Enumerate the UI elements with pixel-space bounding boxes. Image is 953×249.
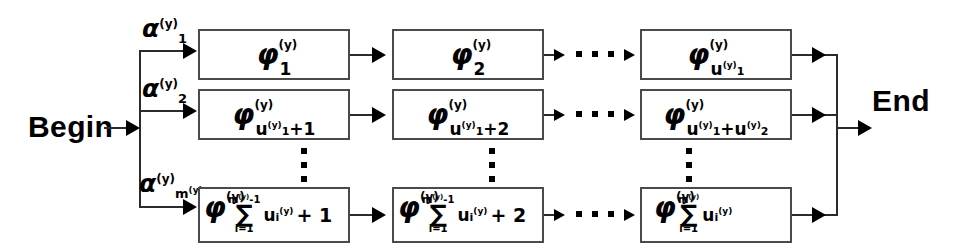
link-arrow-r2-c2-out xyxy=(554,109,565,121)
phi-offset-sub: 2 xyxy=(761,125,769,138)
alpha-base-1: α xyxy=(142,14,159,43)
sum-body-r3c1: ui(y) xyxy=(263,207,293,224)
phi-sub-sup: (y) xyxy=(723,60,737,70)
phi-sub-sup: (y) xyxy=(462,120,476,130)
state-label-r3c1: φ(y) m(y)-1 ∑ i=1 ui(y) + 1 xyxy=(200,189,352,241)
state-label-r2c1: φ(y)u(y)1+1 xyxy=(200,91,348,138)
ellipsis-dot-r1-2 xyxy=(592,51,598,57)
end-output-arrow xyxy=(858,120,872,136)
phi-base: φ xyxy=(427,98,449,131)
phi-offset: +u xyxy=(720,119,746,139)
phi-sup: (y) xyxy=(448,99,467,111)
state-label-r3c3: φ(y) m(y) ∑ i=1 ui(y) xyxy=(642,189,802,241)
vertical-ellipsis-c3-dot1 xyxy=(686,148,692,154)
link-arrow-r2-c1c2 xyxy=(372,107,386,123)
phi-sub-sub: 1 xyxy=(737,65,745,78)
state-box-r2c3[interactable]: φ(y)u(y)1+u(y)2 xyxy=(640,89,792,140)
state-box-r2c2[interactable]: φ(y)u(y)1+2 xyxy=(392,89,544,140)
alpha-sup-m: (y) xyxy=(156,172,175,186)
branch-label-alpha-2: α(y)2 xyxy=(142,76,187,105)
state-label-r2c2: φ(y)u(y)1+2 xyxy=(394,91,542,138)
end-label: End xyxy=(872,86,930,116)
link-arrow-r3-into-c3 xyxy=(624,209,635,221)
phi-sub-sup: (y) xyxy=(268,120,282,130)
sum-offset-r3c1: + 1 xyxy=(296,206,332,225)
end-bus-vertical xyxy=(836,54,838,216)
sum-body-r3c2: ui(y) xyxy=(457,207,487,224)
ellipsis-dot-r2-2 xyxy=(592,111,598,117)
state-box-r1c2[interactable]: φ(y)2 xyxy=(392,29,544,80)
state-box-r3c2[interactable]: φ(y) m(y)-1 ∑ i=1 ui(y) + 2 xyxy=(392,187,544,243)
vertical-ellipsis-c3-dot3 xyxy=(686,176,692,182)
branch-label-alpha-m: α(y)m(y) xyxy=(139,171,203,200)
phi-sub: 2 xyxy=(474,61,486,78)
phi-sub: u(y)1 xyxy=(711,61,745,78)
ellipsis-dot-r2-3 xyxy=(608,111,614,117)
link-arrow-r1-into-c3 xyxy=(624,49,635,61)
begin-input-arrow xyxy=(126,120,140,136)
state-label-r1c1: φ(y)1 xyxy=(200,31,348,78)
phi-sub-base: u xyxy=(255,119,267,139)
vertical-ellipsis-c2-dot2 xyxy=(489,162,495,168)
merge-arrow-r1 xyxy=(812,47,826,63)
ellipsis-dot-r1-3 xyxy=(608,51,614,57)
phi-base: φ xyxy=(233,98,255,131)
alpha-sub-1: 1 xyxy=(178,31,187,46)
sigma-lower: i=1 xyxy=(235,225,254,235)
merge-arrow-r2 xyxy=(812,107,826,123)
phi-sup: (y) xyxy=(710,39,729,51)
sigma-glyph: ∑ xyxy=(680,205,697,224)
sum-expression-r3c2: φ(y) m(y)-1 ∑ i=1 ui(y) + 2 xyxy=(398,195,526,234)
state-label-r3c2: φ(y) m(y)-1 ∑ i=1 ui(y) + 2 xyxy=(394,189,546,241)
phi-sub-base: u xyxy=(449,119,461,139)
link-arrow-r1-c2-out xyxy=(554,49,565,61)
state-label-r1c3: φ(y)u(y)1 xyxy=(642,31,790,78)
phi-base: φ xyxy=(664,98,686,131)
state-box-r3c1[interactable]: φ(y) m(y)-1 ∑ i=1 ui(y) + 1 xyxy=(198,187,350,243)
state-box-r2c1[interactable]: φ(y)u(y)1+1 xyxy=(198,89,350,140)
phi-base: φ xyxy=(398,191,420,224)
state-box-r3c3[interactable]: φ(y) m(y) ∑ i=1 ui(y) xyxy=(640,187,792,243)
phi-base: φ xyxy=(451,38,473,71)
branch-line-3 xyxy=(139,206,187,208)
sum-offset-r3c2: + 2 xyxy=(490,206,526,225)
ellipsis-dot-r2-1 xyxy=(576,111,582,117)
phi-sub-sup: (y) xyxy=(699,120,713,130)
diagram-canvas: Begin α(y)1 α(y)2 α(y)m(y) φ(y)1 φ(y)2 xyxy=(0,0,953,249)
phi-base: φ xyxy=(654,191,676,224)
phi-sup: (y) xyxy=(254,99,273,111)
phi-offset-sup: (y) xyxy=(747,120,761,130)
phi-sup: (y) xyxy=(279,39,298,51)
sigma-lower: i=1 xyxy=(679,225,698,235)
begin-label: Begin xyxy=(28,112,113,142)
state-box-r1c3[interactable]: φ(y)u(y)1 xyxy=(640,29,792,80)
vertical-ellipsis-c1-dot2 xyxy=(301,162,307,168)
branch-arrow-3 xyxy=(183,199,197,215)
ellipsis-dot-r3-2 xyxy=(592,211,598,217)
state-label-r1c2: φ(y)2 xyxy=(394,31,542,78)
ellipsis-dot-r3-1 xyxy=(576,211,582,217)
alpha-sup-1: (y) xyxy=(159,17,178,31)
phi-sub-base: u xyxy=(711,59,723,79)
vertical-ellipsis-c2-dot3 xyxy=(489,176,495,182)
alpha-sup-2: (y) xyxy=(159,77,178,91)
state-box-r1c1[interactable]: φ(y)1 xyxy=(198,29,350,80)
sigma-lower: i=1 xyxy=(429,225,448,235)
link-arrow-r2-into-c3 xyxy=(624,109,635,121)
branch-line-2 xyxy=(139,110,187,112)
vertical-ellipsis-c3-dot2 xyxy=(686,162,692,168)
sum-expression-r3c1: φ(y) m(y)-1 ∑ i=1 ui(y) + 1 xyxy=(204,195,332,234)
phi-sub-base: u xyxy=(686,119,698,139)
phi-sup: (y) xyxy=(473,39,492,51)
vertical-ellipsis-c1-dot1 xyxy=(301,148,307,154)
phi-sub: u(y)1+1 xyxy=(255,121,315,138)
branch-line-1 xyxy=(139,50,187,52)
phi-sub: u(y)1+2 xyxy=(449,121,509,138)
ellipsis-dot-r1-1 xyxy=(576,51,582,57)
vertical-ellipsis-c1-dot3 xyxy=(301,176,307,182)
sigma-symbol: m(y)-1 ∑ i=1 xyxy=(422,195,455,234)
sigma-symbol: m(y)-1 ∑ i=1 xyxy=(228,195,261,234)
sigma-symbol: m(y) ∑ i=1 xyxy=(678,195,699,234)
state-label-r2c3: φ(y)u(y)1+u(y)2 xyxy=(642,91,790,138)
sigma-glyph: ∑ xyxy=(236,205,253,224)
